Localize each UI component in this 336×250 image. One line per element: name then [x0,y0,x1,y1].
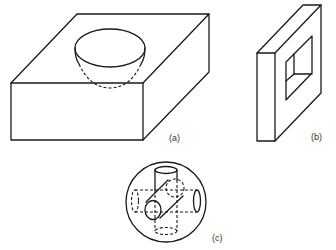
vertical-cylinder-bottom-ellipse [155,228,177,235]
figure-canvas: (a) (b) (c) [0,0,336,250]
hole-inner-diagonal [286,74,294,81]
horizontal-cylinder-left-ellipse [132,190,139,212]
block-top-face [11,14,209,83]
vertical-cylinder-top-ellipse [155,167,177,174]
diagonal-cylinder-lower-edge [160,196,183,218]
plate-left-face [257,53,275,141]
block-front-face [11,83,143,140]
horizontal-cylinder-right-ellipse [194,190,201,212]
panel-a-label: (a) [169,133,180,143]
panel-c-label: (c) [212,233,223,243]
diagonal-cylinder-upper-edge [146,180,168,202]
hole-opening [286,36,312,100]
diagonal-cylinder-front-ellipse [145,201,161,220]
hemisphere-rim [75,29,145,67]
block-right-face [143,14,209,140]
panel-a-block-with-hemisphere: (a) [11,14,209,143]
plate-front-face-edge [275,5,321,141]
panel-b-plate-with-hole: (b) [257,5,322,142]
panel-c-sphere-with-cylinders: (c) [126,162,223,243]
hole-inner-edges [294,54,312,74]
panel-b-label: (b) [311,132,322,142]
diagonal-cylinder-back-ellipse [166,179,184,197]
